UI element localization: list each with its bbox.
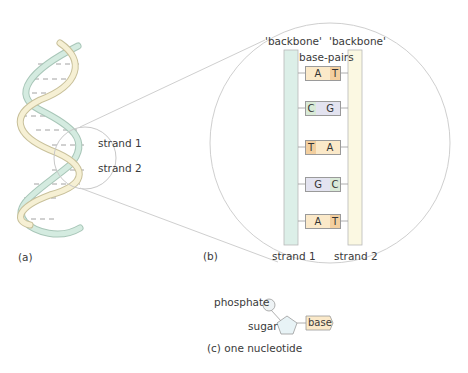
- phosphate-label: phosphate: [214, 297, 270, 308]
- base-pair-5-left: A: [308, 215, 328, 228]
- base-pair-2-left: C: [306, 102, 316, 115]
- base-pair-2: C G: [305, 101, 341, 116]
- backbone-left-label: 'backbone': [265, 36, 322, 47]
- base-pair-3: T A: [305, 140, 341, 155]
- backbone-strand-1: [284, 50, 298, 245]
- base-pair-5-right: T: [330, 215, 340, 228]
- base-pair-2-right: G: [320, 102, 340, 115]
- base-pair-4: G C: [305, 177, 341, 192]
- base-pair-4-right: C: [330, 178, 340, 191]
- panel-c-label: (c) one nucleotide: [207, 343, 302, 354]
- base-pair-5: A T: [305, 214, 341, 229]
- dna-diagram-canvas: [0, 0, 468, 373]
- backbone-right-label: 'backbone': [329, 36, 386, 47]
- base-pair-1: A T: [305, 66, 341, 81]
- base-pair-4-left: G: [308, 178, 328, 191]
- panel-b-strand-1-label: strand 1: [272, 251, 316, 262]
- sugar-pentagon: [277, 316, 297, 334]
- base-pair-1-left: A: [308, 67, 328, 80]
- panel-a-strand-2-label: strand 2: [98, 163, 142, 174]
- base-pairs-label: base-pairs: [299, 52, 354, 63]
- panel-a-strand-1-label: strand 1: [98, 138, 142, 149]
- panel-b-strand-2-label: strand 2: [334, 251, 378, 262]
- panel-b-label: (b): [203, 251, 218, 262]
- panel-a-label: (a): [18, 252, 33, 263]
- base-pair-3-right: A: [320, 141, 340, 154]
- sugar-label: sugar: [248, 321, 278, 332]
- base-label: base: [308, 318, 332, 328]
- backbone-strand-2: [348, 50, 362, 245]
- base-pair-1-right: T: [330, 67, 340, 80]
- base-pair-3-left: T: [306, 141, 316, 154]
